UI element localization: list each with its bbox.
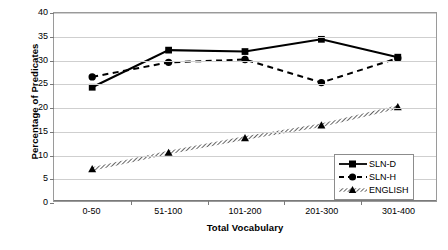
gridline xyxy=(54,108,436,109)
gridline xyxy=(54,132,436,133)
x-tick-label: 0-50 xyxy=(53,206,129,216)
x-axis-title: Total Vocabulary xyxy=(53,222,437,233)
y-tick-label: 25 xyxy=(26,79,48,88)
x-tick-mark xyxy=(131,201,132,205)
legend-item-slnd[interactable]: SLN-D xyxy=(338,157,409,170)
hatched-triangle-key-icon xyxy=(338,184,368,196)
y-tick-label: 15 xyxy=(26,126,48,135)
x-axis-tick-labels: 0-5051-100101-200201-300301-400 xyxy=(53,206,437,220)
y-tick-mark xyxy=(50,132,54,133)
y-tick-label: 20 xyxy=(26,103,48,112)
gridline xyxy=(54,13,436,14)
gridline xyxy=(54,84,436,85)
gridline xyxy=(54,37,436,38)
y-tick-mark xyxy=(50,179,54,180)
dashed-circle-key-icon xyxy=(338,171,368,183)
x-tick-label: 301-400 xyxy=(361,206,437,216)
x-tick-label: 51-100 xyxy=(130,206,206,216)
x-tick-mark xyxy=(361,201,362,205)
legend-label-slnh: SLN-H xyxy=(368,172,396,182)
y-tick-mark xyxy=(50,108,54,109)
legend-label-slnd: SLN-D xyxy=(368,159,396,169)
data-point-sln-h-0 xyxy=(89,73,96,80)
data-point-sln-d-2 xyxy=(242,48,249,55)
line-chart: Percentage of Predicates 051015202530354… xyxy=(0,0,448,250)
x-tick-label: 201-300 xyxy=(284,206,360,216)
data-point-sln-d-1 xyxy=(165,47,172,54)
y-tick-label: 10 xyxy=(26,150,48,159)
y-tick-label: 30 xyxy=(26,55,48,64)
y-axis-tick-labels: 0510152025303540 xyxy=(26,12,48,202)
y-tick-mark xyxy=(50,84,54,85)
y-tick-label: 35 xyxy=(26,31,48,40)
y-tick-mark xyxy=(50,61,54,62)
x-tick-label: 101-200 xyxy=(207,206,283,216)
y-tick-label: 0 xyxy=(26,198,48,207)
x-tick-mark xyxy=(284,201,285,205)
y-tick-label: 5 xyxy=(26,174,48,183)
solid-square-key-icon xyxy=(338,158,368,170)
x-tick-mark xyxy=(208,201,209,205)
y-tick-mark xyxy=(50,13,54,14)
chart-legend: SLN-D SLN-H ENGLISH xyxy=(334,154,414,200)
y-tick-mark xyxy=(50,37,54,38)
legend-item-english[interactable]: ENGLISH xyxy=(338,183,409,196)
legend-item-slnh[interactable]: SLN-H xyxy=(338,170,409,183)
y-tick-mark xyxy=(50,203,54,204)
gridline xyxy=(54,61,436,62)
series-line-sln-d xyxy=(92,39,398,87)
y-tick-label: 40 xyxy=(26,8,48,17)
y-tick-mark xyxy=(50,156,54,157)
legend-label-english: ENGLISH xyxy=(368,185,409,195)
